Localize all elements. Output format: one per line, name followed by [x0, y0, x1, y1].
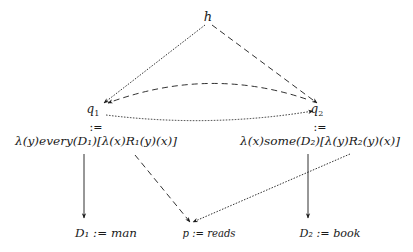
node-q2-formula: λ(x)some(D₂)[λ(y)R₂(y)(x)] [239, 134, 401, 148]
node-h: h [204, 9, 212, 24]
edges [84, 25, 350, 222]
node-d2: D₂ := book [299, 226, 361, 240]
node-q2: q2 := λ(x)some(D₂)[λ(y)R₂(y)(x)] [239, 102, 401, 148]
edge-h-q2-dashed [212, 25, 317, 103]
node-q2-def: := [314, 121, 327, 134]
node-q1: q1 := λ(y)every(D₁)[λ(x)R₁(y)(x)] [14, 102, 178, 148]
scope-diagram: h q1 := λ(y)every(D₁)[λ(x)R₁(y)(x)] q2 :… [0, 0, 413, 252]
node-d1: D₁ := man [74, 226, 137, 240]
edge-q2-p-dotted [193, 154, 350, 222]
edge-q1-p-dashed [135, 155, 190, 222]
node-q1-formula: λ(y)every(D₁)[λ(x)R₁(y)(x)] [14, 134, 178, 148]
svg-text:q2: q2 [311, 102, 324, 118]
svg-text:q1: q1 [87, 102, 100, 118]
edge-h-q1-dotted [104, 25, 205, 103]
node-q1-def: := [90, 121, 103, 134]
edge-q1-q2-dotted-arc [106, 111, 313, 121]
edge-q2-q1-dashed-arc [108, 83, 306, 103]
node-p: p := reads [183, 226, 236, 240]
